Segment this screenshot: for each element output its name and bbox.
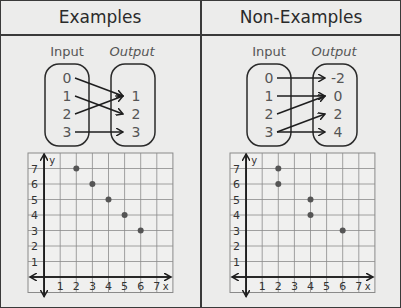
output-value: 0 bbox=[334, 88, 343, 104]
x-tick-label: 1 bbox=[57, 280, 64, 293]
input-value: 3 bbox=[63, 124, 72, 140]
input-value: 0 bbox=[63, 70, 72, 86]
non-examples-panel: InputOutput0123-202412345671234567xy bbox=[202, 36, 401, 308]
output-label: Output bbox=[109, 44, 155, 59]
data-point bbox=[122, 212, 128, 218]
x-tick-label: 7 bbox=[153, 280, 160, 293]
output-value: 3 bbox=[132, 124, 141, 140]
y-tick-label: 4 bbox=[233, 209, 240, 222]
data-point bbox=[89, 181, 95, 187]
graph-grid bbox=[28, 153, 173, 293]
x-tick-label: 2 bbox=[275, 280, 282, 293]
input-value: 1 bbox=[63, 88, 72, 104]
y-tick-label: 5 bbox=[233, 194, 240, 207]
x-tick-label: 2 bbox=[73, 280, 80, 293]
graph-grid bbox=[230, 153, 375, 293]
output-value: 2 bbox=[132, 106, 141, 122]
x-tick-label: 4 bbox=[307, 280, 314, 293]
output-value: 4 bbox=[334, 124, 343, 140]
output-value: -2 bbox=[331, 70, 345, 86]
y-tick-label: 2 bbox=[31, 240, 38, 253]
input-value: 1 bbox=[265, 88, 274, 104]
output-value: 2 bbox=[334, 106, 343, 122]
x-tick-label: 4 bbox=[105, 280, 112, 293]
y-tick-label: 3 bbox=[233, 225, 240, 238]
header-examples: Examples bbox=[0, 0, 200, 34]
data-point bbox=[275, 166, 281, 172]
data-point bbox=[73, 166, 79, 172]
header-non-examples: Non-Examples bbox=[201, 0, 401, 34]
input-label: Input bbox=[252, 44, 286, 59]
y-tick-label: 7 bbox=[233, 163, 240, 176]
x-tick-label: 6 bbox=[339, 280, 346, 293]
output-label: Output bbox=[311, 44, 357, 59]
x-tick-label: 7 bbox=[355, 280, 362, 293]
data-point bbox=[308, 197, 314, 203]
data-point bbox=[275, 181, 281, 187]
output-value: 1 bbox=[132, 88, 141, 104]
x-tick-label: 3 bbox=[89, 280, 96, 293]
y-tick-label: 2 bbox=[233, 240, 240, 253]
y-tick-label: 6 bbox=[31, 178, 38, 191]
input-value: 2 bbox=[265, 106, 274, 122]
input-label: Input bbox=[50, 44, 84, 59]
y-tick-label: 5 bbox=[31, 194, 38, 207]
examples-panel: InputOutput012312312345671234567xy bbox=[0, 36, 200, 308]
data-point bbox=[308, 212, 314, 218]
data-point bbox=[340, 228, 346, 234]
examples-diagram: InputOutput012312312345671234567xy bbox=[0, 36, 200, 308]
x-axis-label: x bbox=[365, 281, 371, 292]
mapping-arrow bbox=[277, 96, 325, 114]
y-tick-label: 4 bbox=[31, 209, 38, 222]
input-value: 0 bbox=[265, 70, 274, 86]
data-point bbox=[106, 197, 112, 203]
y-axis-label: y bbox=[49, 155, 55, 166]
non-examples-diagram: InputOutput0123-202412345671234567xy bbox=[202, 36, 401, 308]
input-value: 3 bbox=[265, 124, 274, 140]
x-axis-label: x bbox=[163, 281, 169, 292]
y-tick-label: 1 bbox=[31, 256, 38, 269]
y-tick-label: 7 bbox=[31, 163, 38, 176]
input-value: 2 bbox=[63, 106, 72, 122]
x-tick-label: 1 bbox=[259, 280, 266, 293]
y-tick-label: 1 bbox=[233, 256, 240, 269]
y-axis-label: y bbox=[251, 155, 257, 166]
x-tick-label: 6 bbox=[137, 280, 144, 293]
y-tick-label: 6 bbox=[233, 178, 240, 191]
x-tick-label: 5 bbox=[323, 280, 330, 293]
data-point bbox=[138, 228, 144, 234]
mapping-arrow bbox=[75, 78, 123, 96]
y-tick-label: 3 bbox=[31, 225, 38, 238]
mapping-arrow bbox=[277, 114, 325, 132]
x-tick-label: 5 bbox=[121, 280, 128, 293]
x-tick-label: 3 bbox=[291, 280, 298, 293]
